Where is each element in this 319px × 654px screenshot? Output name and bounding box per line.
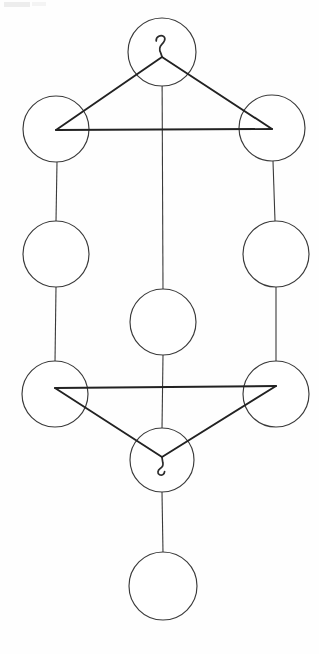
node-center[interactable]	[130, 289, 196, 355]
upper-triangle-edge-right	[162, 57, 272, 129]
node-lower-right[interactable]	[243, 361, 309, 427]
node-group	[22, 18, 309, 620]
upper-triangle-edge-left	[56, 57, 162, 130]
scan-artifact-group	[4, 2, 46, 7]
lower-triangle-edge-top	[55, 386, 276, 388]
connector-right-pillar-upper	[273, 161, 275, 221]
scan-smudge-top-left-2	[32, 2, 46, 6]
connector-left-pillar-upper	[56, 162, 57, 221]
tree-of-life-canvas	[0, 0, 319, 654]
scan-smudge-top-left	[4, 2, 30, 7]
connector-foundation-to-bottom	[162, 492, 163, 553]
connector-center-spine-lower	[162, 355, 163, 429]
node-lower-left[interactable]	[22, 361, 88, 427]
node-top-center[interactable]	[128, 18, 196, 86]
upper-triangle-edge-base	[56, 129, 272, 130]
connector-left-pillar-lower	[55, 287, 56, 362]
node-bottom-center[interactable]	[129, 552, 197, 620]
node-middle-left[interactable]	[23, 221, 89, 287]
connector-center-spine-upper	[162, 57, 163, 290]
tree-of-life-diagram	[0, 0, 319, 654]
node-middle-right[interactable]	[243, 221, 309, 287]
